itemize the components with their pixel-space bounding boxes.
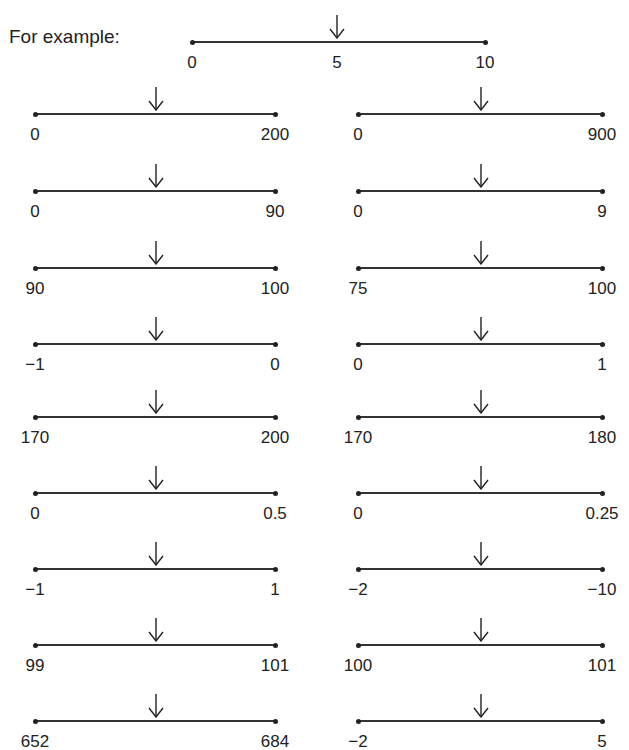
down-arrow-icon [146,164,166,188]
label-left: 170 [21,428,49,448]
label-right: 9 [597,202,606,222]
label-right: 0.5 [263,504,287,524]
endpoint-dot-right [273,643,278,648]
endpoint-dot-left [33,567,38,572]
number-line-segment [192,41,485,43]
number-line-segment [35,343,275,345]
label-left: 0 [353,125,362,145]
number-line-segment [358,568,602,570]
endpoint-dot-right [273,112,278,117]
endpoint-dot-left [356,189,361,194]
label-left: −1 [25,580,44,600]
down-arrow-icon [146,87,166,111]
label-left: −1 [25,355,44,375]
endpoint-dot-right [600,112,605,117]
number-line-segment [35,267,275,269]
endpoint-dot-left [356,643,361,648]
endpoint-dot-right [273,567,278,572]
down-arrow-icon [471,241,491,265]
endpoint-dot-right [273,342,278,347]
endpoint-dot-left [33,112,38,117]
down-arrow-icon [327,15,347,39]
label-right: 5 [597,732,606,750]
down-arrow-icon [471,317,491,341]
endpoint-dot-left [190,40,195,45]
down-arrow-icon [471,694,491,718]
label-right: 101 [261,656,289,676]
endpoint-dot-right [600,567,605,572]
label-left: 652 [21,732,49,750]
down-arrow-icon [146,466,166,490]
label-mid: 5 [332,53,341,73]
endpoint-dot-left [33,491,38,496]
endpoint-dot-right [273,719,278,724]
endpoint-dot-left [356,567,361,572]
number-line-segment [358,416,602,418]
label-left: 0 [353,504,362,524]
endpoint-dot-right [600,189,605,194]
label-left: 170 [344,428,372,448]
endpoint-dot-right [273,415,278,420]
endpoint-dot-right [600,643,605,648]
endpoint-dot-right [273,491,278,496]
down-arrow-icon [471,164,491,188]
label-right: 100 [588,279,616,299]
endpoint-dot-left [356,415,361,420]
number-line-segment [358,267,602,269]
number-line-segment [35,416,275,418]
endpoint-dot-left [33,643,38,648]
label-left: 0 [187,53,196,73]
intro-text: For example: [9,26,120,48]
label-left: 0 [353,355,362,375]
endpoint-dot-right [600,342,605,347]
label-left: −2 [348,732,367,750]
label-left: −2 [348,580,367,600]
label-right: 100 [261,279,289,299]
number-line-segment [35,113,275,115]
endpoint-dot-right [600,415,605,420]
label-right: 0 [270,355,279,375]
endpoint-dot-left [356,719,361,724]
label-right: 900 [588,125,616,145]
label-right: 684 [261,732,289,750]
endpoint-dot-left [33,342,38,347]
number-line-segment [35,190,275,192]
label-left: 0 [30,504,39,524]
number-line-segment [358,720,602,722]
endpoint-dot-left [33,189,38,194]
label-left: 100 [344,656,372,676]
label-right: 180 [588,428,616,448]
endpoint-dot-right [600,491,605,496]
down-arrow-icon [146,317,166,341]
number-line-segment [358,190,602,192]
label-left: 0 [30,202,39,222]
down-arrow-icon [146,694,166,718]
number-line-segment [358,113,602,115]
label-right: 90 [266,202,285,222]
number-line-segment [358,644,602,646]
down-arrow-icon [471,466,491,490]
number-line-segment [35,720,275,722]
number-line-segment [358,343,602,345]
label-right: 1 [597,355,606,375]
down-arrow-icon [471,542,491,566]
down-arrow-icon [146,241,166,265]
down-arrow-icon [146,618,166,642]
endpoint-dot-right [600,266,605,271]
label-left: 75 [349,279,368,299]
number-line-segment [35,492,275,494]
endpoint-dot-left [356,342,361,347]
endpoint-dot-right [600,719,605,724]
endpoint-dot-right [273,266,278,271]
endpoint-dot-left [33,266,38,271]
label-left: 90 [26,279,45,299]
label-left: 99 [26,656,45,676]
endpoint-dot-right [273,189,278,194]
label-right: 0.25 [585,504,618,524]
label-right: 200 [261,428,289,448]
label-right: −10 [588,580,617,600]
endpoint-dot-left [33,415,38,420]
down-arrow-icon [471,618,491,642]
number-line-segment [358,492,602,494]
label-left: 0 [30,125,39,145]
